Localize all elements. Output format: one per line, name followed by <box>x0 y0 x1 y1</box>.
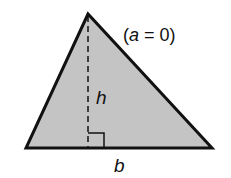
triangle-figure: h b (a = 0) <box>0 0 231 178</box>
triangle-shape <box>26 14 212 148</box>
triangle-diagram: h b (a = 0) <box>0 0 231 178</box>
height-label: h <box>96 87 107 108</box>
condition-label: (a = 0) <box>123 25 176 45</box>
base-label: b <box>114 155 125 176</box>
